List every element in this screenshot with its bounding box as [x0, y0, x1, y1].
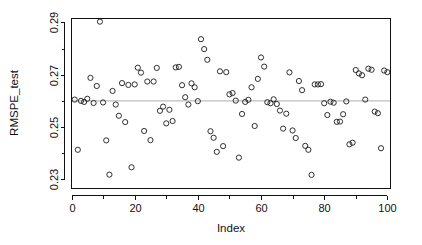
plot-canvas: 020406080100 0.230.250.270.29 Index RMSP…	[0, 0, 422, 245]
y-tick-label: 0.25	[48, 117, 60, 138]
x-axis-title: Index	[217, 222, 245, 234]
x-tick-label: 40	[192, 202, 204, 214]
plot-background	[0, 0, 422, 245]
x-tick-label: 60	[255, 202, 267, 214]
y-axis-title: RMSPE_test	[8, 69, 20, 136]
x-tick-label: 0	[69, 202, 75, 214]
y-tick-label: 0.29	[48, 12, 60, 33]
y-tick-label: 0.23	[48, 169, 60, 190]
x-tick-label: 20	[129, 202, 141, 214]
x-tick-label: 80	[318, 202, 330, 214]
y-tick-label: 0.27	[48, 65, 60, 86]
x-tick-label: 100	[378, 202, 396, 214]
scatter-plot-figure: 020406080100 0.230.250.270.29 Index RMSP…	[0, 0, 422, 245]
